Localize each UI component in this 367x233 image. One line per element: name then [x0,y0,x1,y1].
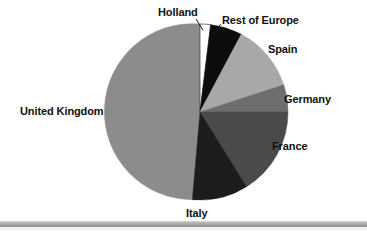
pie-label-spain: Spain [268,43,297,55]
pie-label-united-kingdom: United Kingdom [20,105,104,117]
pie-label-italy: Italy [186,207,208,219]
pie-label-france: France [272,140,307,152]
pie-slice-united-kingdom[interactable] [104,24,200,200]
pie-label-rest-of-europe: Rest of Europe [222,14,299,26]
pie-label-holland: Holland [158,6,198,18]
pie-label-germany: Germany [284,93,331,105]
footer-divider-shadow [0,227,367,230]
pie-chart-figure: Holland Rest of Europe Spain Germany Fra… [0,0,367,233]
